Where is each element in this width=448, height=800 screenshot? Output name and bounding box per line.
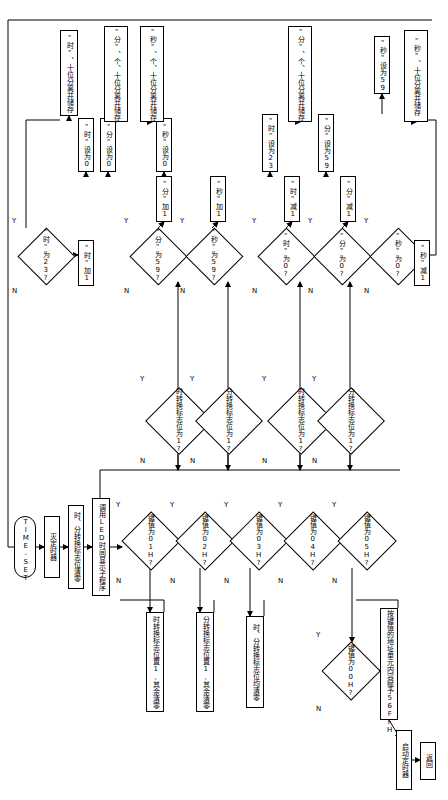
branch-label: N [124, 288, 129, 295]
branch-label: N [312, 458, 317, 465]
process-node: 时转换标志位置1,其余清零 [146, 612, 164, 712]
node-label: "秒"、个、十位分离并储存 [148, 28, 155, 120]
node-label: "时"、十位分离并储存 [65, 34, 72, 113]
decision-node: 键值为04H? [284, 512, 340, 568]
node-label: "分"、个、十位分离并储存 [112, 28, 119, 120]
process-node: 时、分转换标志位清零 [68, 505, 84, 589]
node-label: "时"为23? [41, 228, 48, 282]
branch-label: Y [364, 218, 368, 225]
branch-label: N [224, 578, 229, 585]
branch-label: N [140, 458, 145, 465]
process-node: "秒"设为59 [374, 36, 390, 94]
node-label: "秒"、十位分离并储存 [412, 37, 419, 116]
process-node: "秒"设为0 [156, 118, 172, 172]
decision-node: 键值为05H? [338, 512, 394, 568]
node-label: "秒"减1 [418, 244, 425, 282]
process-node: "时"加1 [78, 240, 94, 286]
node-label: "时"设为0 [82, 123, 89, 168]
node-label: "秒"为0? [393, 232, 400, 278]
node-label: "分"加1 [160, 180, 167, 218]
node-label: 键值为03H? [254, 514, 261, 567]
decision-node: 分转换标志位为1? [196, 388, 260, 452]
process-node: 返回 [420, 742, 436, 780]
node-label: "时"设为23 [266, 117, 273, 170]
node-label: "分"减1 [344, 180, 351, 218]
node-label: 键值为00H? [346, 644, 353, 697]
branch-label: N [12, 288, 17, 295]
node-label: 时、分转换标志位清零 [72, 512, 79, 582]
node-label: 时、分转换标志位均清零 [251, 624, 258, 701]
branch-label: N [190, 458, 195, 465]
branch-label: N [252, 288, 257, 295]
node-label: 按键值的地址单元内容赋予56FFH [385, 610, 392, 718]
decision-node: "秒"为59? [186, 228, 240, 282]
node-label: TIME-SET [21, 518, 28, 576]
node-label: "分"设为59 [322, 117, 329, 170]
branch-label: Y [180, 218, 184, 225]
node-label: 分转换标志位置1,其余清零 [201, 616, 208, 709]
branch-label: Y [332, 502, 336, 509]
decision-node: 键值为03H? [230, 512, 286, 568]
node-label: 返回 [424, 754, 431, 768]
branch-label: Y [224, 502, 228, 509]
node-label: "秒"设为0 [160, 123, 167, 168]
node-label: "时"减1 [288, 180, 295, 218]
node-label: "秒"加1 [214, 180, 221, 218]
branch-label: Y [308, 218, 312, 225]
branch-label: Y [190, 376, 194, 383]
branch-label: N [180, 288, 185, 295]
process-node: "分"设为0 [100, 118, 116, 172]
process-node: "秒"加1 [210, 176, 226, 222]
node-label: 调用LED时间显示子程序 [97, 504, 104, 591]
branch-label: Y [316, 632, 320, 639]
process-node: 时、分转换标志位均清零 [246, 616, 264, 708]
branch-label: Y [12, 218, 16, 225]
node-label: "分"设为0 [104, 123, 111, 168]
process-node: 按键值的地址单元内容赋予56FFH [380, 608, 398, 720]
process-node: "时"设为23 [262, 114, 278, 172]
branch-label: N [364, 288, 369, 295]
process-node: "分"、个、十位分离并储存 [104, 26, 128, 122]
node-label: 分转换标志位为1? [346, 388, 353, 453]
decision-node: 键值为02H? [176, 512, 232, 568]
process-node: "分"、个、十位分离并储存 [288, 26, 312, 122]
branch-label: N [278, 578, 283, 585]
process-node: 启动定时器 [396, 730, 412, 790]
decision-node: "时"为0? [258, 228, 312, 282]
node-label: "时"加1 [82, 244, 89, 282]
decision-node: "分"为59? [130, 228, 184, 282]
node-label: 键值为02H? [200, 514, 207, 567]
branch-label: N [332, 578, 337, 585]
process-node: "时"、十位分离并储存 [60, 30, 78, 116]
decision-node: 键值为00H? [322, 642, 378, 698]
node-label: "分"为59? [153, 228, 160, 282]
process-node: "分"设为59 [318, 114, 334, 172]
node-label: 启动定时器 [400, 743, 407, 778]
node-label: "分"、个、十位分离并储存 [296, 28, 303, 120]
decision-node: "时"为23? [18, 228, 72, 282]
node-label: 键值为05H? [362, 514, 369, 567]
branch-label: Y [252, 218, 256, 225]
decision-node: "分"为0? [314, 228, 368, 282]
branch-label: N [308, 288, 313, 295]
node-label: "分"为0? [337, 232, 344, 278]
node-label: 时转换标志位为1? [174, 388, 181, 453]
terminator-node: TIME-SET [14, 516, 36, 578]
branch-label: Y [116, 502, 120, 509]
node-label: 时转换标志位为1? [296, 388, 303, 453]
process-node: "分"加1 [156, 176, 172, 222]
process-node: 调用LED时间显示子程序 [92, 498, 110, 596]
node-label: 时转换标志位置1,其余清零 [151, 616, 158, 709]
branch-label: Y [140, 376, 144, 383]
branch-label: Y [170, 502, 174, 509]
node-label: 键值为01H? [146, 514, 153, 567]
branch-label: Y [278, 502, 282, 509]
branch-label: N [170, 578, 175, 585]
node-label: "秒"设为59 [378, 39, 385, 92]
branch-label: N [316, 706, 321, 713]
node-label: 分转换标志位为1? [224, 388, 231, 453]
flowchart-canvas: TIME-SET灭定时器时、分转换标志位清零调用LED时间显示子程序键值为01H… [0, 0, 448, 800]
process-node: 灭定时器 [44, 516, 60, 578]
node-label: "时"为0? [281, 232, 288, 278]
process-node: 分转换标志位置1,其余清零 [196, 612, 214, 712]
